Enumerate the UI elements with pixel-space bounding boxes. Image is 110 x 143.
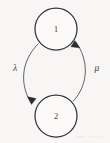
edge-mu-curve <box>73 42 85 102</box>
node-1-label: 1 <box>54 24 59 34</box>
node-1: 1 <box>35 8 77 50</box>
state-transition-diagram: λ μ 1 2 <box>0 0 110 143</box>
arrowhead-into-node-2-icon <box>27 97 36 105</box>
edge-lambda: λ <box>12 44 39 105</box>
node-2-label: 2 <box>54 111 59 121</box>
node-2: 2 <box>35 95 77 137</box>
edge-lambda-curve <box>24 44 39 104</box>
edge-label-mu: μ <box>94 63 100 73</box>
edge-label-lambda: λ <box>12 63 17 73</box>
edge-mu: μ <box>71 41 100 102</box>
